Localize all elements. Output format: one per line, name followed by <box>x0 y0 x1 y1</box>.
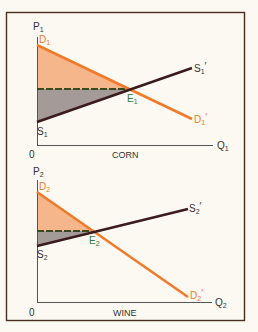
x-axis-label-corn: Q1 <box>217 140 229 152</box>
origin-label-corn: 0 <box>29 149 35 160</box>
demand-end-label-corn: D1′ <box>194 112 207 126</box>
equilibrium-label-corn: E1 <box>127 93 138 105</box>
supply-start-label-wine: S2 <box>37 249 48 261</box>
x-axis-label-wine: Q2 <box>215 297 227 309</box>
demand-start-label-wine: D2 <box>39 181 50 193</box>
supply-end-label-wine: S2′ <box>189 201 202 215</box>
corn-chart: P1 D1 S1 E1 S1′ D1′ Q1 0 CORN <box>29 21 229 160</box>
origin-label-wine: 0 <box>29 307 35 318</box>
caption-corn: CORN <box>112 150 139 160</box>
supply-end-label-corn: S1′ <box>194 61 207 75</box>
y-axis-label-corn: P1 <box>33 21 44 33</box>
demand-start-label-corn: D1 <box>39 34 50 46</box>
caption-wine: WINE <box>113 308 137 318</box>
supply-start-label-corn: S1 <box>37 126 48 138</box>
y-axis-label-wine: P2 <box>33 166 44 178</box>
demand-curve-wine <box>37 192 188 297</box>
supply-demand-figure: P1 D1 S1 E1 S1′ D1′ Q1 0 CORN P2 D2 S2 E… <box>0 0 258 332</box>
wine-chart: P2 D2 S2 E2 S2′ D2′ Q2 0 WINE <box>29 166 227 318</box>
demand-end-label-wine: D2′ <box>190 288 203 302</box>
equilibrium-label-wine: E2 <box>89 235 100 247</box>
figure: P1 D1 S1 E1 S1′ D1′ Q1 0 CORN P2 D2 S2 E… <box>0 0 258 332</box>
